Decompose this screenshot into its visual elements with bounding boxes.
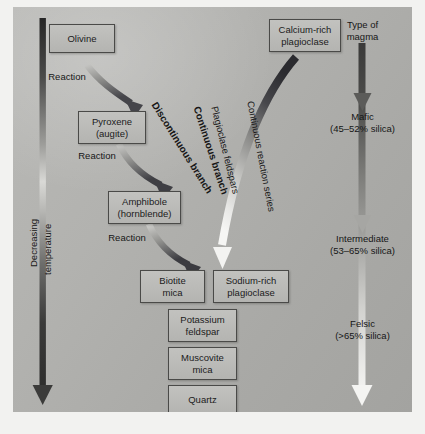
mineral-box-muscovite-mica[interactable]: Muscovite mica: [168, 347, 237, 380]
mineral-box-pyroxene[interactable]: Pyroxene (augite): [78, 111, 146, 144]
magma-type-intermediate-silica: (53–65% silica): [315, 245, 410, 257]
bowens-reaction-series-figure: Olivine Pyroxene (augite) Amphibole (hor…: [0, 0, 425, 434]
magma-type-mafic-name: Mafic: [324, 111, 401, 123]
magma-type-mafic-silica: (45–52% silica): [315, 123, 410, 135]
diagram-panel: Olivine Pyroxene (augite) Amphibole (hor…: [13, 7, 412, 412]
mineral-box-biotite-mica[interactable]: Biotite mica: [140, 270, 205, 303]
mineral-box-amphibole[interactable]: Amphibole (hornblende): [108, 191, 181, 224]
reaction-label-1: Reaction: [37, 71, 97, 83]
temperature-label: temperature: [42, 224, 53, 275]
decreasing-label: Decreasing: [28, 219, 39, 267]
mineral-box-sodium-rich-plagioclase[interactable]: Sodium-rich plagioclase: [213, 270, 289, 303]
magma-column-header: Type of magma: [324, 19, 401, 42]
mineral-box-quartz[interactable]: Quartz: [168, 385, 237, 412]
reaction-label-3: Reaction: [97, 232, 157, 244]
magma-type-arrow: [352, 43, 373, 406]
magma-type-felsic-silica: (>65% silica): [315, 330, 410, 342]
mineral-box-potassium-feldspar[interactable]: Potassium feldspar: [168, 309, 237, 342]
reaction-label-2: Reaction: [67, 150, 127, 162]
magma-type-felsic-name: Felsic: [324, 318, 401, 330]
magma-type-intermediate-name: Intermediate: [315, 233, 410, 245]
mineral-box-olivine[interactable]: Olivine: [49, 24, 115, 53]
